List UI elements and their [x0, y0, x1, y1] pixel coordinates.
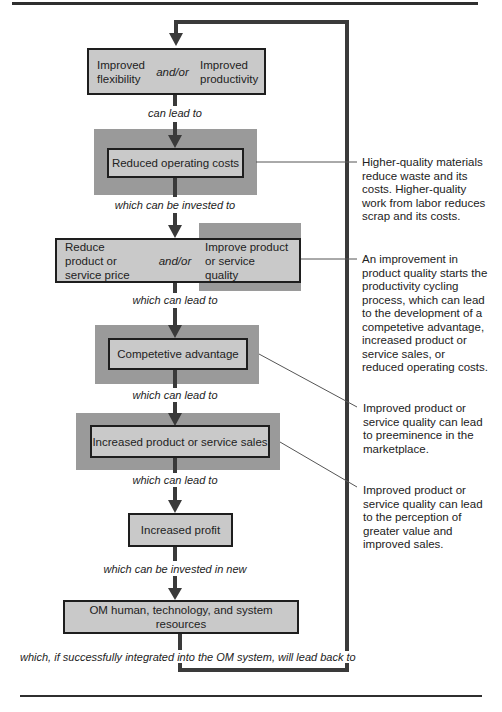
note-line: productivity cycling	[362, 280, 488, 294]
note-line: work from labor reduces	[362, 197, 485, 211]
note-line: service quality can lead	[363, 498, 483, 512]
connector-label: which can be invested to	[75, 199, 275, 211]
note-reduced-costs: Higher-quality materials reduce waste an…	[362, 156, 485, 224]
note-line: Improved product or	[363, 484, 483, 498]
note-line: reduce waste and its	[362, 170, 485, 184]
node-price-and-quality: Reduce product or service price and/or I…	[55, 238, 301, 283]
note-line: scrap and its costs.	[362, 210, 485, 224]
note-line: greater value and	[363, 525, 483, 539]
node-label: Reduced operating costs	[112, 156, 239, 170]
arrow-down-icon	[168, 325, 182, 338]
node-label: Increased profit	[141, 523, 220, 537]
note-line: service sales, or	[362, 348, 488, 362]
note-line: An improvement in	[362, 253, 488, 267]
node-label: Increased product or service sales	[92, 435, 267, 449]
arrow-down-icon	[168, 135, 182, 148]
node-improved-flexibility-productivity: Improved flexibility and/or Improved pro…	[87, 48, 266, 95]
connector-label: which can lead to	[100, 474, 250, 486]
note-preeminence: Improved product or service quality can …	[363, 402, 483, 456]
note-line: to the perception of	[363, 511, 483, 525]
arrow-down-icon	[168, 500, 182, 513]
note-line: Higher-quality materials	[362, 156, 485, 170]
note-line: reduced operating costs.	[362, 361, 488, 375]
node-increased-sales: Increased product or service sales	[90, 425, 270, 458]
connector-label-loop-back: which, if successfully integrated into t…	[20, 651, 350, 663]
node-label: OM human, technology, and system resourc…	[65, 603, 297, 631]
note-line: to preeminence in the	[363, 429, 483, 443]
connector-label: which can be invested in new	[75, 563, 275, 575]
node-competetive-advantage: Competetive advantage	[108, 338, 248, 370]
note-perceived-value: Improved product or service quality can …	[363, 484, 483, 552]
note-line: process, which can lead	[362, 294, 488, 308]
node-om-resources: OM human, technology, and system resourc…	[63, 600, 299, 634]
note-line: improved sales.	[363, 538, 483, 552]
note-line: competetive advantage,	[362, 321, 488, 335]
node-label: Competetive advantage	[117, 347, 238, 361]
note-line: Improved product or	[363, 402, 483, 416]
arrow-down-icon	[169, 33, 183, 46]
note-line: service quality can lead	[363, 416, 483, 430]
node-reduced-operating-costs: Reduced operating costs	[107, 148, 244, 178]
note-line: costs. Higher-quality	[362, 183, 485, 197]
node-left-label: Improved flexibility	[97, 58, 145, 86]
joiner-label: and/or	[159, 254, 192, 268]
note-line: increased product or	[362, 334, 488, 348]
connector-label: which can lead to	[100, 389, 250, 401]
connector-label: which can lead to	[100, 294, 250, 306]
note-line: marketplace.	[363, 443, 483, 457]
note-line: to the development of a	[362, 307, 488, 321]
arrow-down-icon	[168, 225, 182, 238]
node-left-label: Reduce product or service price	[65, 240, 145, 282]
node-increased-profit: Increased profit	[128, 513, 233, 547]
note-line: product quality starts the	[362, 267, 488, 281]
arrow-down-icon	[168, 588, 182, 600]
connector-label: can lead to	[125, 107, 225, 119]
joiner-label: and/or	[156, 65, 189, 79]
note-quality-improvement: An improvement in product quality starts…	[362, 253, 488, 375]
node-right-label: Improved productivity	[200, 58, 256, 86]
node-right-label: Improve product or service quality	[205, 240, 291, 282]
